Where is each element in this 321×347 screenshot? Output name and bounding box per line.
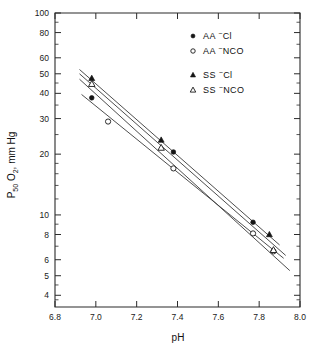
x-tick-label: 6.8 [49, 312, 61, 322]
x-tick-label: 7.2 [131, 312, 143, 322]
y-tick-label: 6 [44, 255, 49, 265]
y-tick-label: 40 [40, 88, 50, 98]
legend-entry: AA −Cl [191, 30, 232, 41]
y-tick-label: 30 [40, 114, 50, 124]
legend-entry: AA −NCO [191, 45, 244, 56]
figure-container: 100806050403020108654 6.87.07.27.47.67.8… [0, 0, 321, 347]
filled-circle-marker [171, 150, 176, 155]
y-tick-label: 8 [44, 230, 49, 240]
open-circle-marker [171, 166, 176, 171]
x-axis-title-text: pH [172, 332, 185, 343]
open-triangle-marker [190, 87, 195, 92]
open-circle-marker [191, 49, 195, 53]
y-axis-tick-labels: 100806050403020108654 [35, 8, 49, 300]
x-axis-title: pH [172, 332, 185, 343]
regression-line [80, 70, 280, 245]
legend-entry: SS −NCO [190, 84, 244, 95]
y-tick-label: 60 [40, 53, 50, 63]
legend-label: AA −NCO [203, 45, 244, 56]
x-tick-label: 7.6 [212, 312, 224, 322]
filled-triangle-marker [190, 72, 195, 77]
y-tick-label: 20 [40, 149, 50, 159]
filled-circle-marker [89, 96, 94, 101]
y-tick-label: 100 [35, 8, 49, 18]
series-markers [89, 96, 255, 225]
y-axis-title-text: P50 O2, mm Hg [6, 132, 19, 199]
y-tick-label: 10 [40, 210, 50, 220]
chart-legend: AA −ClAA −NCOSS −ClSS −NCO [190, 30, 244, 95]
regression-line [80, 74, 286, 256]
p50-vs-ph-chart: 100806050403020108654 6.87.07.27.47.67.8… [0, 0, 321, 347]
x-tick-label: 7.4 [172, 312, 184, 322]
filled-circle-marker [191, 34, 195, 38]
legend-label: AA −Cl [203, 30, 232, 41]
open-circle-marker [250, 231, 255, 236]
y-tick-label: 50 [40, 69, 50, 79]
y-tick-label: 4 [44, 290, 49, 300]
y-axis-major-ticks [55, 13, 300, 295]
series-markers [89, 75, 273, 237]
regression-lines [80, 70, 290, 271]
x-tick-label: 7.8 [253, 312, 265, 322]
open-circle-marker [105, 119, 110, 124]
x-tick-label: 7.0 [90, 312, 102, 322]
x-axis-tick-labels: 6.87.07.27.47.67.88.0 [49, 312, 306, 322]
filled-circle-marker [251, 220, 256, 225]
legend-entry: SS −Cl [190, 69, 232, 80]
regression-line [80, 79, 290, 270]
y-tick-label: 80 [40, 28, 50, 38]
open-triangle-marker [89, 81, 95, 87]
legend-label: SS −Cl [203, 69, 233, 80]
legend-label: SS −NCO [203, 84, 244, 95]
y-tick-label: 5 [44, 271, 49, 281]
x-tick-label: 8.0 [294, 312, 306, 322]
y-axis-minor-ticks [55, 22, 300, 300]
series-markers [105, 119, 276, 254]
y-axis-title: P50 O2, mm Hg [6, 132, 19, 199]
